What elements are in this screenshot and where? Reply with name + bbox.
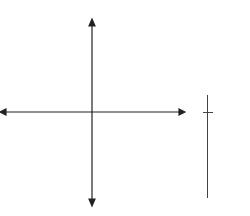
x-axis-right-arrow-icon [179, 109, 185, 115]
column-header-y [208, 95, 214, 113]
table-row [203, 113, 213, 131]
table-row [203, 181, 213, 198]
y-value [208, 113, 214, 131]
axes [0, 19, 185, 206]
table-row [203, 147, 213, 164]
table-row [203, 164, 213, 181]
table-row [203, 130, 213, 147]
y-value [208, 147, 214, 164]
values-table [203, 95, 213, 198]
y-axis-up-arrow-icon [89, 19, 95, 26]
y-value [208, 130, 214, 147]
y-value [208, 164, 214, 181]
x-axis-left-arrow-icon [0, 109, 6, 115]
coordinate-grid [0, 0, 190, 216]
y-axis-down-arrow-icon [89, 199, 95, 206]
y-value [208, 181, 214, 198]
